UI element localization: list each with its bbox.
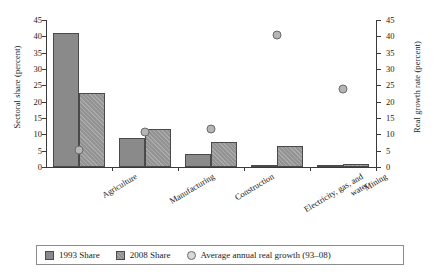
legend-item-average-growth: Average annual real growth (93–08) [187, 250, 331, 260]
y-axis-right-title: Real growth rate (percent) [412, 22, 422, 152]
y-axis-left-tick-label: 45 [26, 16, 42, 25]
x-axis-group-tick [376, 167, 377, 171]
y-axis-right-tick-mark [377, 85, 381, 86]
y-axis-right-tick-label: 20 [386, 98, 402, 107]
x-axis-group-tick [310, 167, 311, 171]
y-axis-right-tick-label: 35 [386, 49, 402, 58]
legend-swatch-average-growth [187, 251, 196, 260]
y-axis-left-tick-label: 5 [26, 147, 42, 156]
bar-2008-share [277, 146, 303, 167]
y-axis-right-tick-label: 5 [386, 147, 402, 156]
y-axis-left-tick-label: 35 [26, 49, 42, 58]
marker-average-growth [75, 146, 84, 155]
bar-group [112, 20, 178, 167]
marker-average-growth [273, 31, 282, 40]
x-axis-label: Construction [233, 172, 276, 203]
legend-swatch-1993-share [45, 251, 54, 260]
marker-average-growth [207, 124, 216, 133]
y-axis-right-tick-mark [377, 118, 381, 119]
bar-group [178, 20, 244, 167]
marker-average-growth [141, 127, 150, 136]
y-axis-right-tick-mark [377, 20, 381, 21]
bar-1993-share [251, 165, 277, 167]
bar-group [244, 20, 310, 167]
bar-group [310, 20, 376, 167]
x-axis-group-tick [112, 167, 113, 171]
marker-average-growth [339, 84, 348, 93]
y-axis-right-tick-label: 10 [386, 130, 402, 139]
y-axis-right-tick-label: 15 [386, 114, 402, 123]
plot-area [46, 20, 376, 167]
y-axis-right-tick-label: 25 [386, 81, 402, 90]
bar-group [46, 20, 112, 167]
x-axis-group-tick [178, 167, 179, 171]
legend-item-2008-share: 2008 Share [116, 250, 171, 260]
y-axis-left-tick-label: 25 [26, 81, 42, 90]
y-axis-left-tick-mark [42, 167, 46, 168]
y-axis-left-tick-label: 40 [26, 32, 42, 41]
bar-2008-share [343, 164, 369, 167]
legend-item-1993-share: 1993 Share [45, 250, 100, 260]
y-axis-left-tick-label: 10 [26, 130, 42, 139]
legend-label-2008-share: 2008 Share [130, 250, 171, 260]
y-axis-left-tick-label: 15 [26, 114, 42, 123]
bar-2008-share [79, 93, 105, 167]
chart-figure: Sectoral share (percent) Real growth rat… [0, 0, 439, 274]
y-axis-right-line [376, 20, 377, 168]
y-axis-right-tick-mark [377, 53, 381, 54]
bar-2008-share [211, 142, 237, 167]
x-axis-label: Manufacturing [168, 172, 216, 206]
y-axis-right-tick-mark [377, 151, 381, 152]
y-axis-right-tick-label: 30 [386, 65, 402, 74]
bar-1993-share [317, 165, 343, 167]
bar-1993-share [185, 154, 211, 167]
y-axis-right-tick-mark [377, 102, 381, 103]
y-axis-right-tick-label: 40 [386, 32, 402, 41]
x-axis-label: Mining [363, 172, 389, 193]
bar-1993-share [119, 138, 145, 167]
x-axis-label: Electricity, gas, and water [303, 172, 370, 223]
y-axis-right-tick-mark [377, 36, 381, 37]
y-axis-right-tick-mark [377, 69, 381, 70]
y-axis-left-tick-label: 20 [26, 98, 42, 107]
y-axis-left-title: Sectoral share (percent) [12, 22, 22, 152]
y-axis-right-tick-label: 45 [386, 16, 402, 25]
x-axis-label: Agriculture [101, 172, 139, 200]
y-axis-right-tick-label: 0 [386, 163, 402, 172]
legend-swatch-2008-share [116, 251, 125, 260]
y-axis-left-tick-label: 0 [26, 163, 42, 172]
y-axis-right-tick-mark [377, 134, 381, 135]
y-axis-right-tick-mark [377, 167, 381, 168]
legend-label-1993-share: 1993 Share [59, 250, 100, 260]
x-axis-group-tick [244, 167, 245, 171]
chart-legend: 1993 Share 2008 Share Average annual rea… [36, 245, 404, 265]
x-axis-line [46, 167, 377, 168]
legend-label-average-growth: Average annual real growth (93–08) [201, 250, 331, 260]
y-axis-left-tick-label: 30 [26, 65, 42, 74]
bar-2008-share [145, 129, 171, 167]
